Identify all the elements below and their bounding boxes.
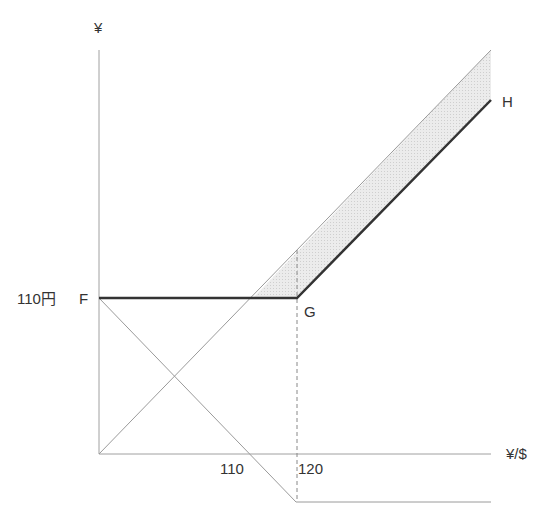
point-h-label: H [502,94,513,109]
x-tick-120: 120 [298,461,323,476]
x-axis-label: ¥/$ [506,446,527,461]
falling-payoff-line [99,298,491,502]
strike-price-label: 110円 [17,291,56,306]
x-tick-110: 110 [220,461,244,476]
point-f-label: F [79,291,88,306]
payoff-diagram [0,0,546,514]
y-axis-label: ¥ [94,20,102,35]
diagonal-line [99,50,491,454]
point-g-label: G [304,304,316,319]
